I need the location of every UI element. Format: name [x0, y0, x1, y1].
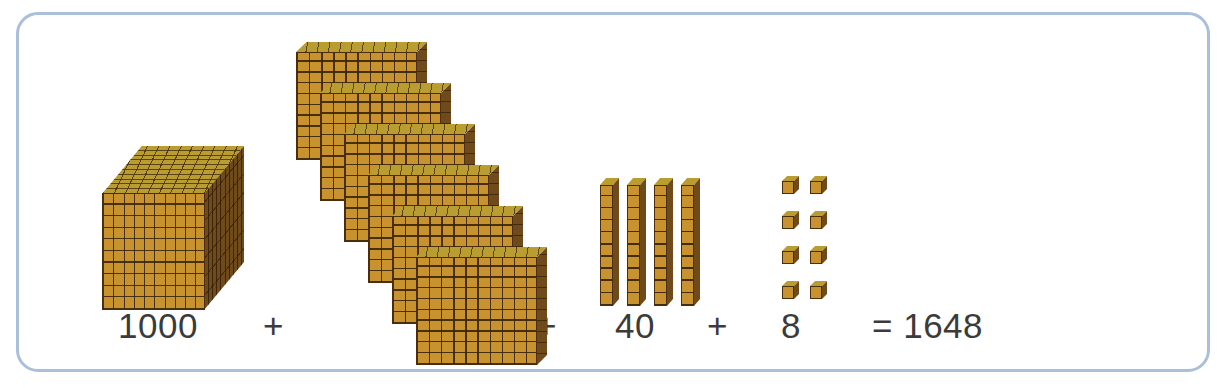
unit-front-face	[782, 286, 794, 299]
one-unit	[782, 246, 799, 264]
flat-side-face	[537, 247, 547, 365]
ten-rods-group	[600, 178, 700, 308]
term-ones: 8	[781, 308, 801, 343]
plus-sign-1: +	[263, 308, 284, 343]
one-unit	[810, 211, 827, 229]
unit-front-face	[810, 181, 822, 194]
rod-front-face	[681, 185, 694, 306]
thousand-cube-block	[102, 146, 270, 310]
flat-top-face	[368, 165, 499, 175]
term-thousands: 1000	[118, 308, 198, 343]
ten-rod	[654, 178, 673, 306]
ten-rod	[627, 178, 646, 306]
rod-front-face	[627, 185, 640, 306]
flat-top-face	[296, 42, 427, 52]
rod-front-face	[654, 185, 667, 306]
unit-front-face	[782, 181, 794, 194]
rod-side-face	[667, 178, 673, 306]
hundred-flat	[416, 247, 547, 365]
rod-side-face	[640, 178, 646, 306]
ten-rod	[600, 178, 619, 306]
unit-front-face	[810, 251, 822, 264]
plus-sign-3: +	[707, 308, 728, 343]
hundred-flats-group	[296, 42, 546, 314]
cube-front-face	[102, 193, 205, 310]
unit-front-face	[810, 286, 822, 299]
one-unit	[810, 281, 827, 299]
rod-side-face	[613, 178, 619, 306]
flat-top-face	[416, 247, 547, 257]
one-unit	[810, 246, 827, 264]
flat-top-face	[392, 206, 523, 216]
one-unit	[782, 281, 799, 299]
one-units-group	[782, 176, 834, 308]
flat-top-face	[320, 83, 451, 93]
unit-front-face	[782, 251, 794, 264]
flat-top-face	[344, 124, 475, 134]
unit-front-face	[810, 216, 822, 229]
one-unit	[810, 176, 827, 194]
result-total: = 1648	[872, 308, 983, 343]
ten-rod	[681, 178, 700, 306]
unit-front-face	[782, 216, 794, 229]
flat-front-face	[416, 257, 537, 365]
rod-front-face	[600, 185, 613, 306]
term-tens: 40	[615, 308, 655, 343]
rod-side-face	[694, 178, 700, 306]
one-unit	[782, 211, 799, 229]
figure-canvas: 1000 + 600 + 40 + 8 = 1648	[0, 0, 1232, 388]
one-unit	[782, 176, 799, 194]
